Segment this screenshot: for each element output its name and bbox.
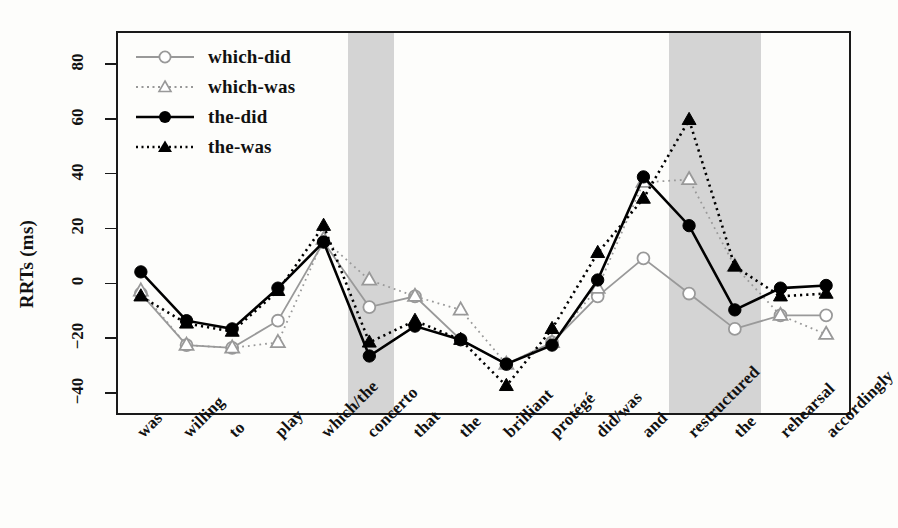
plot-area: which-did which-was the- xyxy=(116,31,851,415)
data-point-open-triangle xyxy=(682,172,696,184)
data-point-filled-triangle xyxy=(636,191,650,203)
y-tick-label: −20 xyxy=(58,326,98,346)
y-tick-mark xyxy=(105,283,116,285)
legend-key-open-circle-solid xyxy=(136,47,194,67)
data-point-open-circle xyxy=(363,301,375,313)
legend-key-open-triangle-dotted xyxy=(136,77,194,97)
y-tick-label: −40 xyxy=(58,381,98,401)
legend-item-which-did[interactable]: which-did xyxy=(136,45,295,69)
data-point-filled-circle xyxy=(683,220,695,232)
data-point-open-circle xyxy=(729,323,741,335)
y-tick-label: 80 xyxy=(58,52,98,72)
data-point-filled-triangle xyxy=(728,259,742,271)
legend-label-which-did: which-did xyxy=(208,46,291,68)
data-point-filled-triangle xyxy=(317,218,331,230)
legend-item-the-did[interactable]: the-did xyxy=(136,105,295,129)
data-point-filled-triangle xyxy=(682,112,696,124)
legend-label-which-was: which-was xyxy=(208,76,295,98)
y-axis-title: RRTs (ms) xyxy=(6,0,48,528)
legend-label-the-was: the-was xyxy=(208,136,272,158)
y-tick-label: 60 xyxy=(58,107,98,127)
x-tick-label: the xyxy=(455,412,486,443)
data-point-open-circle xyxy=(683,288,695,300)
data-point-filled-circle xyxy=(592,274,604,286)
data-point-filled-circle xyxy=(546,339,558,351)
data-point-open-circle xyxy=(637,252,649,264)
y-tick-mark xyxy=(105,228,116,230)
y-tick-mark xyxy=(105,392,116,394)
x-tick-label: to xyxy=(225,418,249,442)
legend-label-the-did: the-did xyxy=(208,106,267,128)
y-tick-label: 40 xyxy=(58,162,98,182)
legend-item-the-was[interactable]: the-was xyxy=(136,135,295,159)
y-tick-mark xyxy=(105,337,116,339)
y-tick-label: 0 xyxy=(58,271,98,291)
y-tick-label: 20 xyxy=(58,216,98,236)
data-point-filled-triangle xyxy=(408,313,422,325)
legend-key-filled-circle-solid xyxy=(136,107,194,127)
series-line xyxy=(141,180,826,365)
x-tick-label: the xyxy=(730,412,761,443)
data-point-open-circle xyxy=(272,315,284,327)
y-tick-mark xyxy=(105,118,116,120)
y-tick-mark xyxy=(105,173,116,175)
data-point-filled-circle xyxy=(500,358,512,370)
data-point-filled-triangle xyxy=(545,321,559,333)
data-point-open-triangle xyxy=(271,335,285,347)
legend-item-which-was[interactable]: which-was xyxy=(136,75,295,99)
y-axis-title-text: RRTs (ms) xyxy=(16,220,38,308)
data-point-filled-circle xyxy=(729,304,741,316)
y-tick-mark xyxy=(105,63,116,65)
chart-legend: which-did which-was the- xyxy=(136,45,295,159)
data-point-filled-circle xyxy=(135,266,147,278)
data-point-open-circle xyxy=(820,309,832,321)
series-which-did xyxy=(135,236,832,370)
legend-key-filled-triangle-dotted xyxy=(136,137,194,157)
data-point-open-triangle xyxy=(362,272,376,284)
data-point-filled-circle xyxy=(637,171,649,183)
data-point-filled-triangle xyxy=(591,245,605,257)
data-point-filled-circle xyxy=(363,350,375,362)
